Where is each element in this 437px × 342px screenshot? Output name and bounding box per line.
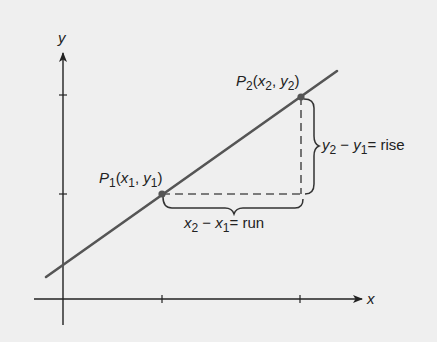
run-brace bbox=[163, 197, 303, 214]
rise-brace bbox=[304, 99, 319, 194]
x-axis-label: x bbox=[366, 290, 375, 307]
slope-diagram: y x P1(x1, y1) P2(x2, y2) y2 − y1= rise … bbox=[0, 0, 437, 342]
point-p1 bbox=[158, 190, 165, 197]
rise-label: y2 − y1= rise bbox=[321, 136, 405, 157]
slope-line bbox=[46, 71, 337, 277]
p1-label: P1(x1, y1) bbox=[99, 169, 162, 190]
run-label: x2 − x1= run bbox=[183, 214, 264, 235]
p2-label: P2(x2, y2) bbox=[236, 72, 299, 93]
y-axis-label: y bbox=[57, 29, 67, 46]
point-p2 bbox=[297, 93, 304, 100]
